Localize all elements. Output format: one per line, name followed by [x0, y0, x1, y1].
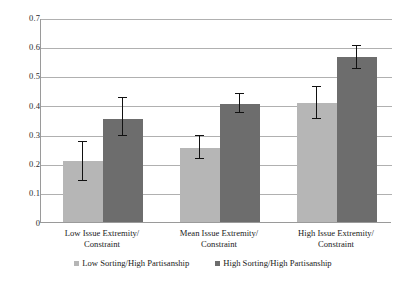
bar-high-sorting-mean-extremity	[220, 104, 260, 222]
error-bar-cap-top	[312, 86, 321, 87]
error-bar-cap-top	[352, 45, 361, 46]
x-axis-category-label-high: High Issue Extremity/ Constraint	[269, 228, 403, 250]
y-axis-tick-label: 0.5	[12, 72, 40, 81]
y-axis-tick-label: 0.2	[12, 160, 40, 169]
gridline	[41, 19, 392, 20]
y-axis-tick-label: 0.6	[12, 43, 40, 52]
error-bar-cap-top	[195, 135, 204, 136]
error-bar-high-sorting-low-extremity	[122, 98, 123, 136]
legend-swatch-icon	[74, 261, 79, 266]
error-bar-cap-top	[118, 97, 127, 98]
error-bar-high-sorting-high-extremity	[356, 46, 357, 69]
y-axis-tick-label: 0.1	[12, 189, 40, 198]
bar-chart: 0.7 0.6 0.5 0.4 0.3 0.2 0.1 0	[0, 0, 406, 287]
error-bar-cap-bottom	[312, 118, 321, 119]
error-bar-low-sorting-mean-extremity	[199, 136, 200, 159]
error-bar-cap-bottom	[235, 112, 244, 113]
plot-area	[40, 19, 391, 223]
bar-high-sorting-high-extremity	[337, 57, 377, 222]
error-bar-cap-bottom	[78, 180, 87, 181]
legend-item-high-sorting: High Sorting/High Partisanship	[215, 258, 331, 268]
y-axis-tick-label: 0.3	[12, 131, 40, 140]
y-axis-tick-label: 0.4	[12, 102, 40, 111]
category-label-line2: Constraint	[35, 239, 169, 250]
error-bar-cap-top	[235, 93, 244, 94]
error-bar-cap-top	[78, 141, 87, 142]
error-bar-low-sorting-low-extremity	[82, 142, 83, 181]
error-bar-low-sorting-high-extremity	[316, 87, 317, 119]
chart-legend: Low Sorting/High Partisanship High Sorti…	[0, 258, 406, 268]
error-bar-cap-bottom	[118, 135, 127, 136]
x-axis-category-label-low: Low Issue Extremity/ Constraint	[35, 228, 169, 250]
y-axis-tick-label: 0	[12, 219, 40, 228]
legend-label: Low Sorting/High Partisanship	[82, 258, 189, 268]
category-label-line1: Mean Issue Extremity/	[180, 228, 258, 238]
legend-label: High Sorting/High Partisanship	[223, 258, 331, 268]
category-label-line2: Constraint	[269, 239, 403, 250]
category-label-line1: Low Issue Extremity/	[65, 228, 139, 238]
y-axis-tick-label: 0.7	[12, 14, 40, 23]
x-axis-category-label-mean: Mean Issue Extremity/ Constraint	[152, 228, 286, 250]
category-label-line2: Constraint	[152, 239, 286, 250]
bar-low-sorting-low-extremity	[63, 161, 103, 222]
error-bar-cap-bottom	[352, 68, 361, 69]
bar-low-sorting-high-extremity	[297, 103, 337, 222]
category-label-line1: High Issue Extremity/	[298, 228, 374, 238]
gridline	[41, 48, 392, 49]
bar-low-sorting-mean-extremity	[180, 148, 220, 222]
error-bar-cap-bottom	[195, 158, 204, 159]
error-bar-high-sorting-mean-extremity	[239, 94, 240, 113]
legend-item-low-sorting: Low Sorting/High Partisanship	[74, 258, 189, 268]
legend-swatch-icon	[215, 261, 220, 266]
